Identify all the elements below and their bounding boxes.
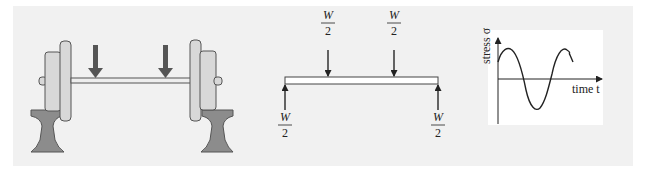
left-rail: [31, 110, 64, 152]
load-label-left: W 2: [321, 8, 335, 38]
figure-canvas: W 2 W 2 W 2 W 2 stress σ t: [0, 0, 649, 173]
fraction-numerator: W: [389, 8, 400, 22]
right-hub-stub: [214, 77, 222, 85]
right-rail: [201, 110, 233, 152]
load-arrow-right-icon: [158, 45, 173, 78]
reaction-label-right: W 2: [431, 110, 445, 140]
graph-box: [488, 30, 603, 125]
beam: [285, 77, 438, 84]
fraction-denominator: 2: [391, 24, 397, 38]
right-wheel: [190, 40, 201, 121]
load-arrow-left-icon: [88, 45, 103, 78]
x-axis-label: time t: [572, 82, 600, 96]
left-wheel-back: [45, 52, 61, 111]
beam-diagram: W 2 W 2 W 2 W 2: [278, 8, 445, 140]
fraction-numerator: W: [280, 110, 291, 124]
fraction-numerator: W: [323, 8, 334, 22]
left-wheel: [60, 41, 71, 121]
fraction-denominator: 2: [435, 126, 441, 140]
y-axis-label: stress σ: [479, 27, 493, 64]
stress-graph: stress σ time t: [479, 27, 603, 125]
fraction-denominator: 2: [325, 24, 331, 38]
axle: [71, 78, 191, 83]
wheelset-illustration: [31, 40, 233, 152]
reaction-label-left: W 2: [278, 110, 292, 140]
fraction-denominator: 2: [282, 126, 288, 140]
fraction-numerator: W: [433, 110, 444, 124]
load-label-right: W 2: [387, 8, 401, 38]
